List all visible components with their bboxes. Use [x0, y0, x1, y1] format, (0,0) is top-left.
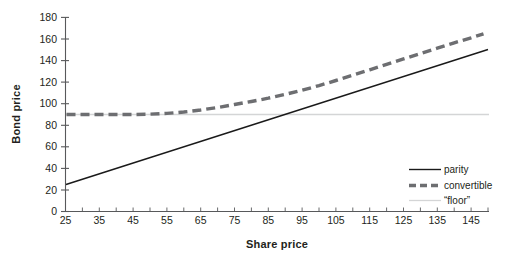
y-tick-label: 20	[45, 184, 57, 196]
y-tick-label: 160	[39, 33, 57, 45]
y-tick-label: 120	[39, 76, 57, 88]
y-tick-label: 140	[39, 54, 57, 66]
y-tick-label: 0	[51, 205, 57, 217]
x-tick-label: 85	[262, 214, 274, 226]
x-axis-title: Share price	[246, 238, 308, 250]
y-tick-label: 100	[39, 97, 57, 109]
y-tick-label: 40	[45, 162, 57, 174]
x-tick-label: 125	[395, 214, 413, 226]
series-convertible-line	[67, 34, 484, 115]
x-axis-tick-labels: 25 35 45 55 65 75 85 95 105 115 125 135 …	[60, 214, 480, 226]
x-tick-label: 145	[462, 214, 480, 226]
series-parity-line	[66, 50, 488, 185]
x-tick-label: 55	[161, 214, 173, 226]
x-tick-label: 75	[229, 214, 241, 226]
x-tick-label: 35	[93, 214, 105, 226]
x-tick-label: 115	[361, 214, 378, 226]
x-tick-label: 135	[429, 214, 447, 226]
chart-legend: parity convertible “floor”	[409, 164, 493, 206]
x-tick-label: 45	[127, 214, 139, 226]
legend-label-parity: parity	[444, 164, 468, 175]
y-axis-tick-labels: 0 20 40 60 80 100 120 140 160 180	[39, 11, 57, 217]
x-tick-label: 105	[327, 214, 345, 226]
legend-label-convertible: convertible	[444, 180, 493, 191]
x-tick-label: 25	[60, 214, 72, 226]
x-axis-minor-ticks	[82, 208, 488, 212]
bond-price-vs-share-price-chart: 0 20 40 60 80 100 120 140 160 180	[0, 0, 507, 269]
x-tick-label: 65	[195, 214, 207, 226]
y-tick-label: 80	[45, 119, 57, 131]
legend-label-floor: “floor”	[444, 195, 470, 206]
x-tick-label: 95	[296, 214, 308, 226]
y-tick-label: 60	[45, 140, 57, 152]
y-tick-label: 180	[39, 11, 57, 23]
y-axis-title: Bond price	[10, 84, 22, 143]
chart-figure: 0 20 40 60 80 100 120 140 160 180	[0, 0, 507, 269]
